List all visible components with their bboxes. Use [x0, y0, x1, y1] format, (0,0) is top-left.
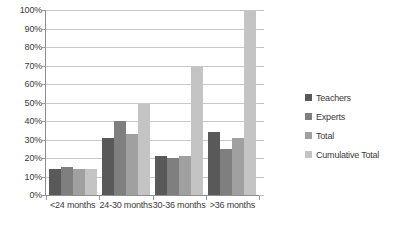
y-tick-mark-right	[259, 29, 264, 30]
y-tick-mark	[42, 121, 46, 122]
y-tick-mark	[42, 103, 46, 104]
bar[interactable]	[244, 10, 256, 195]
y-tick-mark	[42, 47, 46, 48]
chart-legend: TeachersExpertsTotalCumulative Total	[305, 88, 399, 164]
y-tick-mark-right	[259, 140, 264, 141]
bar-group	[206, 10, 259, 195]
x-tick-mark	[206, 196, 207, 200]
bar[interactable]	[138, 104, 150, 195]
y-tick-label: 20%	[25, 153, 42, 163]
legend-item[interactable]: Experts	[305, 107, 399, 126]
y-axis-labels: 100%90%80%70%60%50%40%30%20%10%0%	[0, 10, 42, 195]
x-tick-label: <24 months	[46, 200, 99, 212]
y-tick-mark	[42, 84, 46, 85]
bar[interactable]	[179, 156, 191, 195]
x-tick-label: 30-36 months	[153, 200, 206, 212]
y-tick-mark	[42, 10, 46, 11]
bar-groups	[46, 10, 259, 195]
bar-group	[46, 10, 99, 195]
bar[interactable]	[49, 169, 61, 195]
bar[interactable]	[155, 156, 167, 195]
y-tick-label: 50%	[25, 98, 42, 108]
y-tick-label: 70%	[25, 61, 42, 71]
bar[interactable]	[114, 121, 126, 195]
legend-item[interactable]: Cumulative Total	[305, 145, 399, 164]
y-tick-mark-right	[259, 66, 264, 67]
x-tick-mark	[259, 196, 260, 200]
y-tick-label: 80%	[25, 42, 42, 52]
y-tick-mark	[42, 29, 46, 30]
legend-label: Teachers	[316, 93, 351, 103]
y-tick-mark-right	[259, 84, 264, 85]
bar[interactable]	[126, 134, 138, 195]
x-tick-mark	[99, 196, 100, 200]
legend-item[interactable]: Total	[305, 126, 399, 145]
legend-label: Experts	[316, 112, 345, 122]
bar-chart: 100%90%80%70%60%50%40%30%20%10%0% <24 mo…	[0, 0, 399, 248]
x-axis-labels: <24 months24-30 months30-36 months>36 mo…	[46, 200, 259, 212]
plot-wrapper: 100%90%80%70%60%50%40%30%20%10%0% <24 mo…	[0, 0, 300, 248]
y-tick-mark	[42, 177, 46, 178]
legend-swatch-icon	[305, 151, 312, 158]
legend-swatch-icon	[305, 132, 312, 139]
y-tick-mark-right	[259, 177, 264, 178]
y-tick-label: 90%	[25, 24, 42, 34]
bar[interactable]	[208, 132, 220, 195]
legend-swatch-icon	[305, 94, 312, 101]
legend-swatch-icon	[305, 113, 312, 120]
bar[interactable]	[167, 158, 179, 195]
y-tick-mark	[42, 66, 46, 67]
y-tick-mark-right	[259, 121, 264, 122]
y-tick-mark-right	[259, 47, 264, 48]
legend-label: Cumulative Total	[316, 150, 379, 160]
bar[interactable]	[85, 169, 97, 195]
y-tick-label: 40%	[25, 116, 42, 126]
y-tick-mark-right	[259, 158, 264, 159]
bar[interactable]	[73, 169, 85, 195]
bar[interactable]	[102, 138, 114, 195]
y-tick-mark-right	[259, 103, 264, 104]
bar[interactable]	[191, 66, 203, 196]
y-tick-mark-right	[259, 10, 264, 11]
legend-label: Total	[316, 131, 334, 141]
y-tick-mark	[42, 158, 46, 159]
bar[interactable]	[220, 149, 232, 195]
bar[interactable]	[61, 167, 73, 195]
bar-group	[99, 10, 152, 195]
y-tick-label: 10%	[25, 172, 42, 182]
y-tick-label: 100%	[20, 5, 42, 15]
bar[interactable]	[232, 138, 244, 195]
x-tick-label: >36 months	[206, 200, 259, 212]
bar-group	[153, 10, 206, 195]
legend-item[interactable]: Teachers	[305, 88, 399, 107]
x-tick-mark	[46, 196, 47, 200]
y-tick-label: 30%	[25, 135, 42, 145]
y-tick-mark	[42, 140, 46, 141]
x-tick-label: 24-30 months	[99, 200, 152, 212]
y-tick-label: 0%	[29, 190, 42, 200]
y-tick-label: 60%	[25, 79, 42, 89]
x-tick-mark	[153, 196, 154, 200]
